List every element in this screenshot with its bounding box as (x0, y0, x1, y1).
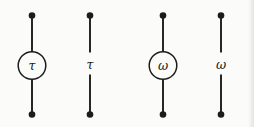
edge-omega-plain: ω (216, 12, 226, 118)
edge-label: τ (29, 58, 37, 73)
figure-canvas: ττωω (0, 0, 254, 127)
edge-label: ω (216, 57, 226, 72)
figure-four-labeled-edges: ττωω (0, 0, 254, 127)
edge-tau-circled: τ (18, 12, 46, 118)
edge-tau-plain: τ (87, 12, 95, 118)
edge-label: τ (87, 57, 95, 72)
edge-label: ω (158, 58, 168, 73)
edge-omega-circled: ω (149, 12, 177, 118)
